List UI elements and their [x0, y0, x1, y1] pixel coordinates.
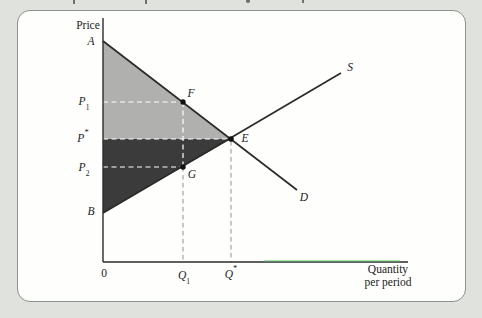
- point-dot-e: [228, 136, 234, 142]
- pstar-axis-label: P*: [77, 132, 88, 145]
- q1-axis-label: Q1: [178, 269, 190, 282]
- p2-base: P: [79, 161, 86, 173]
- supply-curve-label: S: [347, 61, 353, 74]
- p1-base: P: [79, 95, 86, 107]
- x-axis-title-line1: Quantity: [365, 263, 412, 276]
- point-a-label: A: [87, 35, 94, 48]
- point-f-label: F: [187, 87, 194, 100]
- y-axis-title: Price: [76, 19, 100, 32]
- page: { "page": { "background_color": "#e0e3dd…: [0, 0, 482, 318]
- pstar-base: P: [77, 132, 84, 144]
- point-dot-f: [180, 99, 185, 104]
- point-b-label: B: [87, 205, 94, 218]
- qstar-axis-label: Q*: [225, 268, 238, 281]
- p2-subscript: 2: [86, 170, 90, 179]
- p1-subscript: 1: [86, 104, 90, 113]
- x-axis-title-line2: per period: [365, 276, 412, 289]
- p1-axis-label: P1: [79, 95, 90, 108]
- demand-curve-label: D: [300, 191, 308, 204]
- point-e-label: E: [241, 132, 248, 145]
- origin-label: 0: [101, 267, 107, 280]
- qstar-superscript: *: [233, 264, 237, 274]
- point-g-label: G: [188, 168, 196, 181]
- q1-subscript: 1: [186, 278, 190, 287]
- p2-axis-label: P2: [79, 161, 90, 174]
- point-dot-g: [180, 164, 185, 169]
- pstar-superscript: *: [84, 128, 88, 138]
- x-axis-title: Quantity per period: [365, 263, 412, 289]
